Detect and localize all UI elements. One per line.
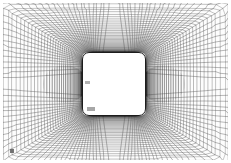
body-interior-mark-left bbox=[85, 81, 90, 84]
body-interior-mark-lower bbox=[87, 107, 95, 111]
mesh-figure bbox=[0, 0, 231, 163]
mesh-plot-area bbox=[3, 3, 228, 160]
corner-reference-tick bbox=[10, 149, 14, 153]
